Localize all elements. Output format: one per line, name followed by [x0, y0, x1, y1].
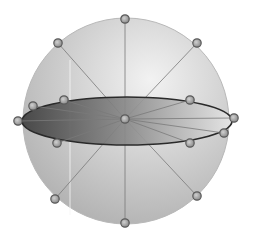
node-disk-back-right	[186, 96, 194, 104]
node-disk-back-left	[60, 96, 68, 104]
node-disk-left-upper	[29, 102, 37, 110]
node-top	[121, 15, 129, 23]
node-bottom	[121, 219, 129, 227]
node-center	[121, 115, 129, 123]
node-right	[230, 114, 238, 122]
node-left	[14, 117, 22, 125]
node-bottom-right	[193, 192, 201, 200]
sphere-diagram	[0, 0, 254, 239]
node-disk-front-left	[53, 139, 61, 147]
sphere-diagram-canvas	[0, 0, 254, 239]
node-top-left	[54, 39, 62, 47]
node-disk-right-lower	[220, 129, 228, 137]
node-disk-front-right	[186, 139, 194, 147]
node-bottom-left	[51, 195, 59, 203]
node-top-right	[193, 39, 201, 47]
